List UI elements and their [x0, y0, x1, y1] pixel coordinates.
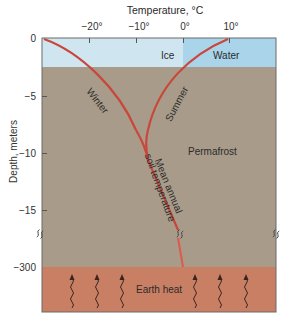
permafrost-label: Permafrost: [188, 146, 237, 157]
earth-heat-label: Earth heat: [136, 284, 182, 295]
water-label: Water: [213, 50, 239, 61]
diagram-canvas: [0, 0, 282, 316]
ice-label: Ice: [161, 50, 174, 61]
